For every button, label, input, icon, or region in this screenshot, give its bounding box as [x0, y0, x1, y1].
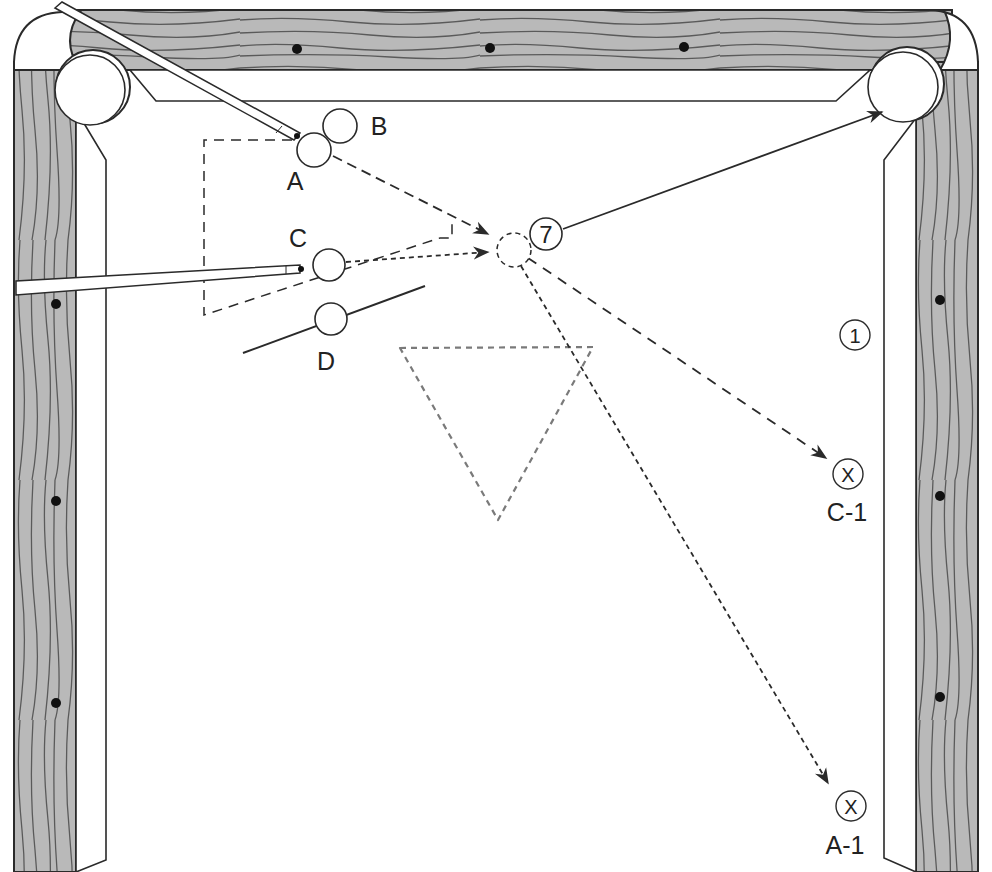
label-c-1: C-1 [827, 500, 867, 525]
label-a-1: A-1 [826, 833, 865, 858]
path-7-to-pocket [563, 112, 882, 229]
path-c-to-ghost [346, 252, 488, 262]
pool-table-diagram: B A C D 7 1 X C-1 X A-1 [0, 0, 992, 872]
x-icon: X [844, 797, 857, 817]
cushions [76, 70, 916, 872]
rack-triangle-outline [400, 347, 593, 520]
path-to-c1 [528, 258, 826, 458]
label-d: D [317, 349, 335, 374]
ball-a [297, 133, 331, 167]
label-c: C [289, 226, 307, 251]
ball-b [323, 109, 357, 143]
x-icon: X [841, 465, 854, 485]
ghost-ball [497, 233, 531, 267]
left-rail [14, 62, 76, 872]
ball-c [313, 249, 345, 281]
ball-d [315, 303, 347, 335]
label-b: B [371, 114, 388, 139]
right-rail [916, 62, 978, 872]
top-rail [62, 10, 952, 70]
ball-1-number: 1 [849, 326, 860, 346]
path-to-a1 [521, 266, 828, 783]
pocket-top-left [55, 50, 130, 125]
ball-7-number: 7 [539, 223, 552, 247]
path-a-to-ghost [333, 156, 488, 234]
label-a: A [287, 169, 304, 194]
pocket-top-right [868, 47, 944, 122]
